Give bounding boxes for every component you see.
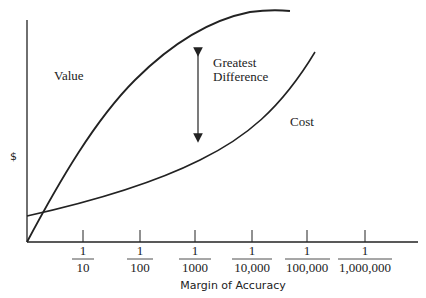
tick-numerator: 1 (137, 243, 144, 258)
chart: 1 10 1 100 1 1000 1 10,000 1 100,000 1 1… (0, 0, 426, 298)
tick-denominator: 10,000 (234, 260, 270, 275)
tick-denominator: 100 (130, 260, 150, 275)
tick-denominator: 1000 (182, 260, 208, 275)
tick-numerator: 1 (192, 243, 199, 258)
tick-denominator: 100,000 (286, 260, 328, 275)
x-ticks (83, 230, 365, 242)
y-axis-label: $ (10, 150, 17, 163)
tick-numerator: 1 (80, 243, 87, 258)
tick-denominator: 10 (77, 260, 90, 275)
x-tick-labels: 1 10 1 100 1 1000 1 10,000 1 100,000 1 1… (72, 243, 392, 275)
tick-denominator: 1,000,000 (339, 260, 391, 275)
tick-numerator: 1 (362, 243, 369, 258)
tick-numerator: 1 (304, 243, 311, 258)
cost-label: Cost (290, 114, 314, 129)
x-axis-label: Margin of Accuracy (180, 279, 286, 292)
greatest-difference-label-line1: Greatest (213, 55, 257, 70)
value-label: Value (54, 68, 84, 83)
greatest-difference-label-line2: Difference (213, 69, 269, 84)
tick-numerator: 1 (249, 243, 256, 258)
